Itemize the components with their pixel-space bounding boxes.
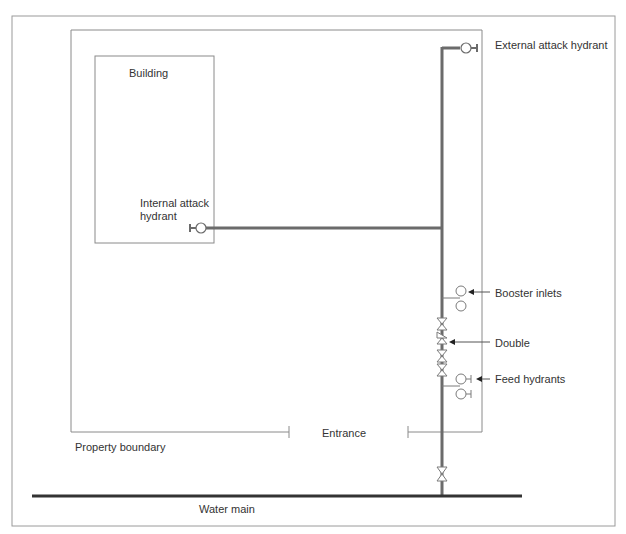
main-valve-icon [437, 467, 447, 481]
internal-hydrant-label-1: Internal attack [140, 196, 209, 210]
building-label: Building [129, 66, 168, 80]
property-boundary-label: Property boundary [75, 440, 166, 454]
external-hydrant-icon [461, 43, 471, 53]
booster-inlets-icon [442, 286, 466, 311]
internal-hydrant-icon [196, 223, 206, 233]
feed-hydrants-label: Feed hydrants [495, 372, 565, 386]
booster-inlets-label: Booster inlets [495, 286, 562, 300]
double-label: Double [495, 336, 530, 350]
internal-hydrant-label-2: hydrant [140, 209, 177, 223]
entrance-label: Entrance [322, 426, 366, 440]
external-hydrant-label: External attack hydrant [495, 38, 608, 52]
feed-hydrants-icon [442, 374, 471, 399]
property-boundary-line [71, 30, 482, 432]
water-main-label: Water main [199, 502, 255, 516]
